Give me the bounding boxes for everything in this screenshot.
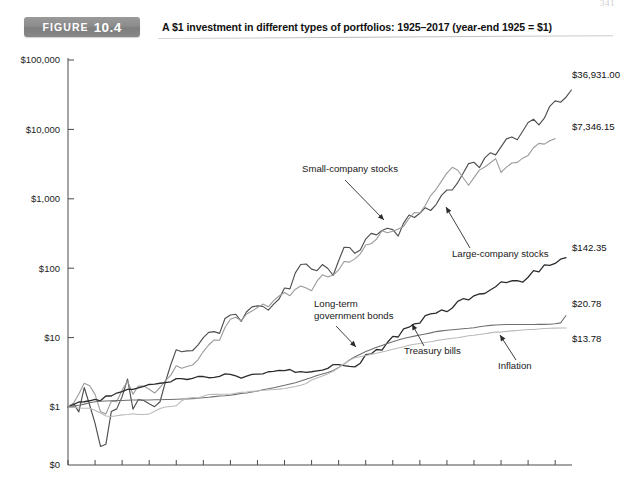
figure-title: A $1 investment in different types of po… — [162, 21, 552, 33]
annotation-label-long-term-government-bonds: Long-term — [314, 298, 358, 309]
x-axis-tick-label: 2005 — [490, 470, 511, 472]
series-line-inflation — [68, 328, 566, 417]
end-value-label: $36,931.00 — [572, 69, 620, 80]
series-line-large-company-stocks — [68, 139, 555, 414]
annotation-label-large-company-stocks: Large-company stocks — [452, 248, 549, 259]
y-axis-tick-label: $10,000 — [26, 124, 60, 135]
axis-lines — [68, 58, 572, 465]
y-axis-tick-label: $1,000 — [31, 193, 60, 204]
x-axis-tick-label: 1980 — [355, 470, 376, 472]
x-axis-tick-label: 1935 — [111, 470, 132, 472]
x-axis-tick-label: 1970 — [301, 470, 322, 472]
x-axis-tick-label: 1945 — [166, 470, 187, 472]
x-axis-tick-label: 1965 — [274, 470, 295, 472]
annotation-arrowhead-large-company-stocks — [446, 207, 451, 213]
end-value-label: $7,346.15 — [572, 121, 615, 132]
x-axis-tick-label: 1940 — [139, 470, 160, 472]
end-value-label: $13.78 — [572, 333, 601, 344]
source-note-clip: Source: Morningstar, 2018, author calcul… — [0, 474, 633, 490]
y-axis-tick-label: $100,000 — [20, 54, 60, 65]
x-axis-tick-label: 1960 — [247, 470, 268, 472]
annotation-label-long-term-government-bonds: government bonds — [314, 310, 394, 321]
annotation-label-treasury-bills: Treasury bills — [404, 345, 461, 356]
annotation-label-small-company-stocks: Small-company stocks — [302, 163, 398, 174]
series-line-treasury-bills — [68, 316, 566, 407]
investment-growth-line-chart: $100,000$10,000$1,000$100$10$1$019251930… — [0, 52, 633, 472]
annotation-arrowhead-inflation — [500, 335, 505, 341]
x-axis-tick-label: 1925 — [57, 470, 78, 472]
x-axis-tick-label: 2000 — [463, 470, 484, 472]
y-axis-tick-label: $1 — [49, 401, 60, 412]
x-axis-tick-label: 1930 — [84, 470, 105, 472]
annotation-arrow-small-company-stocks — [345, 180, 384, 220]
x-axis-tick-label: 1955 — [220, 470, 241, 472]
figure-header: FIGURE 10.4 A $1 investment in different… — [24, 17, 552, 37]
figure-tag-word: FIGURE — [42, 21, 88, 33]
x-axis-tick-label: 1985 — [382, 470, 403, 472]
x-axis-tick-label: 2010 — [517, 470, 538, 472]
end-value-label: $142.35 — [572, 242, 607, 253]
x-axis-tick-label: 2015 — [545, 470, 566, 472]
end-value-label: $20.78 — [572, 298, 601, 309]
figure-tag-badge: FIGURE 10.4 — [24, 17, 140, 37]
y-axis-tick-label: $0 — [49, 459, 60, 470]
y-axis-tick-label: $10 — [44, 332, 60, 343]
annotation-label-inflation: Inflation — [498, 360, 532, 371]
figure-page: 341 FIGURE 10.4 A $1 investment in diffe… — [0, 0, 633, 490]
series-line-small-company-stocks — [68, 90, 571, 446]
x-axis-tick-label: 1975 — [328, 470, 349, 472]
x-axis-tick-label: 1950 — [193, 470, 214, 472]
x-axis-tick-label: 1990 — [409, 470, 430, 472]
x-axis-tick-label: 1995 — [436, 470, 457, 472]
annotation-arrow-large-company-stocks — [446, 207, 470, 248]
figure-tag-number: 10.4 — [94, 20, 122, 35]
chart-plot-area: $100,000$10,000$1,000$100$10$1$019251930… — [0, 52, 633, 472]
page-folio: 341 — [600, 0, 615, 8]
y-axis-tick-label: $100 — [39, 263, 60, 274]
